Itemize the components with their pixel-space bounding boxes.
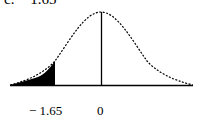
shaded-tail <box>10 61 55 85</box>
tick-label-zero: 0 <box>97 103 104 119</box>
tick-label-minus-1-65: − 1.65 <box>29 103 62 119</box>
